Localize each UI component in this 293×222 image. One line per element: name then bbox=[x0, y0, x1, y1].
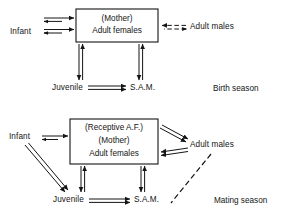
edge-infant-to-females-lower bbox=[44, 30, 74, 34]
edge-females-to-males-bottom bbox=[160, 125, 188, 142]
season-label-birth: Birth season bbox=[213, 84, 259, 93]
label-sam-bottom: S.A.M. bbox=[134, 196, 159, 204]
label-adult-females-top: Adult females bbox=[76, 26, 158, 37]
label-sam-top: S.A.M. bbox=[130, 84, 155, 92]
figure-root: Infant (Mother) Adult females Adult male… bbox=[0, 0, 293, 222]
season-label-mating: Mating season bbox=[214, 196, 267, 205]
edge-males-to-females-bottom bbox=[161, 148, 188, 156]
edge-females-sam-bottom bbox=[141, 166, 145, 192]
label-adult-females-bottom: Adult females bbox=[70, 149, 158, 160]
label-adult-males-bottom: Adult males bbox=[190, 141, 234, 149]
edge-juvenile-sam-top bbox=[88, 86, 126, 89]
edge-infant-juvenile-bottom bbox=[25, 143, 68, 192]
edge-females-juvenile-bottom bbox=[81, 166, 85, 192]
edge-infant-to-females-upper bbox=[44, 18, 74, 21]
edge-infant-to-females-bottom bbox=[42, 136, 68, 140]
label-receptive-af-bottom: (Receptive A.F.) bbox=[70, 123, 158, 134]
label-juvenile-top: Juvenile bbox=[52, 84, 83, 92]
label-mother-bottom: (Mother) bbox=[70, 136, 158, 147]
label-mother-top: (Mother) bbox=[76, 14, 158, 25]
label-infant-top: Infant bbox=[10, 28, 31, 36]
edge-juvenile-sam-bottom bbox=[89, 199, 130, 202]
label-infant-bottom: Infant bbox=[9, 133, 30, 141]
edge-males-to-females-dashed-top bbox=[162, 25, 187, 29]
label-juvenile-bottom: Juvenile bbox=[53, 196, 84, 204]
edge-males-sam-dashed-bottom bbox=[171, 154, 211, 203]
label-adult-males-top: Adult males bbox=[190, 23, 234, 31]
edge-females-sam-top bbox=[139, 44, 143, 80]
edge-females-juvenile-top bbox=[79, 44, 83, 80]
